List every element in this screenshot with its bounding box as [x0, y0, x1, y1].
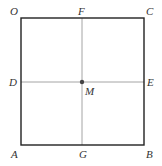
point-m-dot — [80, 80, 84, 84]
label-g: G — [79, 148, 87, 160]
square-diagram: O F C D E M A G B — [0, 0, 162, 166]
label-c: C — [146, 5, 154, 17]
label-m: M — [84, 85, 95, 97]
label-a: A — [10, 148, 18, 160]
label-d: D — [8, 76, 17, 88]
label-o: O — [10, 5, 18, 17]
label-e: E — [146, 76, 154, 88]
label-b: B — [146, 148, 153, 160]
label-f: F — [77, 5, 85, 17]
